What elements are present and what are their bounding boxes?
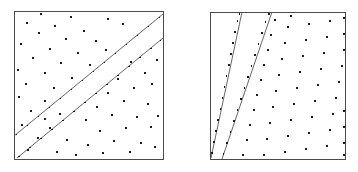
- lattice-dot: [99, 130, 101, 132]
- lattice-dot-on-line: [247, 76, 249, 78]
- lattice-dot-on-line: [106, 84, 108, 86]
- lattice-dot-on-line: [239, 13, 241, 15]
- lattice-dot: [105, 49, 107, 51]
- lattice-dot: [38, 32, 40, 34]
- lattice-dot: [37, 137, 39, 139]
- lattice-dot: [305, 39, 307, 41]
- lattice-dot: [335, 97, 337, 99]
- lattice-dot: [267, 49, 269, 51]
- lattice-dot-on-line: [104, 62, 106, 64]
- lattice-dot: [71, 77, 73, 79]
- lattice-dot-on-line: [29, 147, 31, 149]
- lattice-dot-on-line: [265, 21, 267, 23]
- lattice-dot: [21, 124, 23, 126]
- lattice-dot-on-line: [254, 54, 256, 56]
- lattice-dot-on-line: [240, 98, 242, 100]
- lattice-dot: [281, 58, 283, 60]
- lattice-dot-on-line: [126, 44, 128, 46]
- lattice-dot: [75, 154, 77, 156]
- lattice-dot: [314, 100, 316, 102]
- lattice-dot: [256, 94, 258, 96]
- lattice-dot-on-line: [237, 20, 239, 22]
- lattice-dot-on-line: [244, 87, 246, 89]
- lattice-dot: [311, 116, 313, 118]
- lattice-dot: [343, 154, 345, 156]
- lattice-dot-on-line: [49, 107, 51, 109]
- lattice-dot: [317, 84, 319, 86]
- lattice-dot-on-line: [233, 120, 235, 122]
- lattice-dot-on-line: [40, 138, 42, 140]
- lattice-dot: [125, 127, 127, 129]
- lattice-dot-on-line: [268, 13, 270, 15]
- lattice-dot: [40, 13, 42, 15]
- lattice-dot: [49, 127, 51, 129]
- lattice-dot: [249, 124, 251, 126]
- lattice-dot: [102, 152, 104, 154]
- lattice-dot: [44, 72, 46, 74]
- lattice-dot-on-line: [139, 57, 141, 59]
- lattice-dot: [44, 100, 46, 102]
- lattice-dot: [107, 18, 109, 20]
- lattice-dot: [83, 30, 85, 32]
- lattice-dot: [274, 19, 276, 21]
- lattice-dot: [18, 96, 20, 98]
- lattice-dot-on-line: [261, 32, 263, 34]
- lattice-dot-on-line: [16, 134, 18, 136]
- lattice-dot-on-line: [115, 53, 117, 55]
- lattice-dot-on-line: [73, 111, 75, 113]
- lattice-dot: [326, 36, 328, 38]
- lattice-dot-on-line: [222, 97, 224, 99]
- lattice-dot-on-line: [137, 35, 139, 37]
- lattice-dot-on-line: [82, 80, 84, 82]
- lattice-dot-on-line: [160, 40, 162, 42]
- lattice-dot: [278, 74, 280, 76]
- lattice-dot: [156, 59, 158, 61]
- lattice-dot: [26, 22, 28, 24]
- lattice-dot-on-line: [150, 48, 152, 50]
- lattice-dot-on-line: [230, 131, 232, 133]
- lattice-dot: [140, 142, 142, 144]
- lattice-dot-on-line: [84, 102, 86, 104]
- lattice-dot: [123, 100, 125, 102]
- lattice-dot: [260, 79, 262, 81]
- lattice-dot: [147, 103, 149, 105]
- lattice-dot: [308, 23, 310, 25]
- lattice-dot: [133, 87, 135, 89]
- lattice-dot-on-line: [62, 120, 64, 122]
- lattice-dot: [263, 154, 265, 156]
- lattice-dot-on-line: [27, 125, 29, 127]
- lattice-dot: [122, 23, 124, 25]
- lattice-dot-on-line: [148, 26, 150, 28]
- lattice-dot: [130, 61, 132, 63]
- lattice-dot-on-line: [117, 75, 119, 77]
- lattice-dot-on-line: [18, 156, 20, 158]
- lattice-dot: [323, 52, 325, 54]
- lattice-dot: [308, 132, 310, 134]
- figure-background: [0, 0, 358, 172]
- lattice-dot-on-line: [211, 152, 213, 154]
- lattice-dot-on-line: [128, 66, 130, 68]
- lattice-dot: [85, 119, 87, 121]
- lattice-dot-on-line: [159, 17, 161, 19]
- lattice-dot-on-line: [237, 109, 239, 111]
- lattice-dot: [44, 118, 46, 120]
- lattice-dot-on-line: [258, 43, 260, 45]
- lattice-dot: [287, 26, 289, 28]
- lattice-dot: [293, 103, 295, 105]
- lattice-dot: [54, 25, 56, 27]
- lattice-dot: [326, 145, 328, 147]
- lattice-dot: [269, 122, 271, 124]
- lattice-dot: [332, 113, 334, 115]
- lattice-dot-on-line: [226, 75, 228, 77]
- lattice-dot-on-line: [217, 119, 219, 121]
- lattice-dot: [89, 64, 91, 66]
- lattice-dot: [25, 83, 27, 85]
- lattice-dot: [290, 15, 292, 17]
- lattice-dot: [305, 148, 307, 150]
- lattice-dot: [329, 129, 331, 131]
- lattice-dot: [341, 65, 343, 67]
- lattice-dot: [287, 135, 289, 137]
- lattice-dot: [107, 92, 109, 94]
- lattice-dot: [284, 151, 286, 153]
- lattice-dot-on-line: [51, 129, 53, 131]
